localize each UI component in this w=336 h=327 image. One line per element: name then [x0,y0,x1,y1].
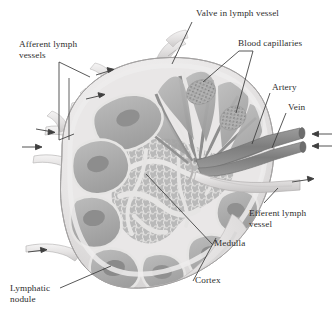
label-artery: Artery [272,82,297,93]
label-cortex: Cortex [195,275,221,286]
label-valve-in-lymph-vessel: Valve in lymph vessel [196,8,279,19]
artery-arrow [312,131,332,136]
label-lymphatic-nodule: Lymphatic nodule [10,283,50,304]
efferent-arrow [292,176,314,182]
node-body [60,57,273,298]
label-efferent-lymph-vessel: Efferent lymph vessel [249,208,306,229]
label-afferent-lymph-vessels: Afferent lymph vessels [19,39,77,60]
label-blood-capillaries: Blood capillaries [238,38,302,49]
afferent-arrow-4 [22,144,42,149]
label-medulla: Medulla [214,238,245,249]
leader-afferent-upper [59,62,90,77]
label-vein: Vein [288,102,305,113]
vein-arrow [312,143,332,148]
lymph-node-diagram: Valve in lymph vessel Blood capillaries … [0,0,336,327]
